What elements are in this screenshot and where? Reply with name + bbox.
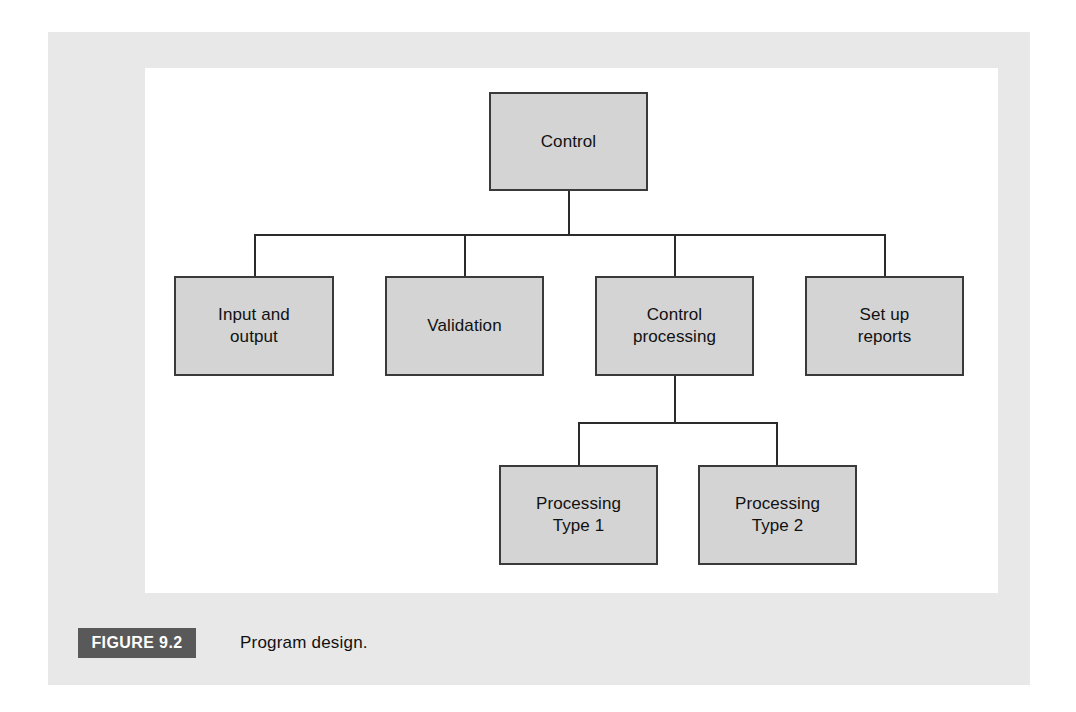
figure-caption-text: Program design. — [240, 633, 368, 653]
connector-drop-processing-type-1 — [578, 422, 580, 465]
node-processing-type-1[interactable]: Processing Type 1 — [499, 465, 658, 565]
node-input-and-output[interactable]: Input and output — [174, 276, 334, 376]
connector-drop-input-and-output — [254, 234, 256, 276]
figure-frame: Control Input and output Validation Cont… — [48, 32, 1030, 685]
node-control[interactable]: Control — [489, 92, 648, 191]
connector-drop-processing-type-2 — [776, 422, 778, 465]
diagram-canvas: Control Input and output Validation Cont… — [145, 68, 998, 593]
connector-level2-bus — [578, 422, 778, 424]
connector-drop-set-up-reports — [884, 234, 886, 276]
node-set-up-reports[interactable]: Set up reports — [805, 276, 964, 376]
connector-level1-bus — [254, 234, 886, 236]
figure-caption: FIGURE 9.2 Program design. — [78, 628, 368, 658]
node-control-processing[interactable]: Control processing — [595, 276, 754, 376]
connector-drop-control-processing — [674, 234, 676, 276]
figure-number-tag: FIGURE 9.2 — [78, 628, 196, 658]
node-processing-type-2[interactable]: Processing Type 2 — [698, 465, 857, 565]
connector-control-processing-stem — [674, 376, 676, 422]
connector-control-stem — [568, 191, 570, 234]
connector-drop-validation — [464, 234, 466, 276]
node-validation[interactable]: Validation — [385, 276, 544, 376]
